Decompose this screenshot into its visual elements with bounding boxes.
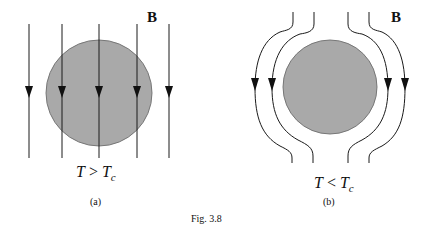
condition-label-a: T>Tc	[76, 164, 116, 180]
condition-operator: >	[89, 163, 98, 180]
figure-caption: Fig. 3.8	[191, 214, 222, 224]
condition-rhs: T	[340, 174, 349, 191]
field-label-b: B	[391, 10, 401, 25]
down-arrow-icon	[268, 78, 276, 91]
sample-circle-b	[283, 40, 377, 134]
condition-lhs: T	[76, 163, 85, 180]
down-arrow-icon	[384, 78, 392, 91]
condition-lhs: T	[314, 174, 323, 191]
field-label-a: B	[147, 10, 157, 25]
figure: B T>Tc (a) B T<Tc (b) Fig. 3.8	[0, 0, 426, 230]
panel-a-drawing	[25, 24, 173, 158]
diagram-canvas	[0, 0, 426, 230]
condition-rhs-subscript: c	[111, 171, 116, 183]
condition-label-b: T<Tc	[314, 175, 354, 191]
panel-tag-a: (a)	[90, 197, 101, 207]
panel-tag-b: (b)	[323, 197, 335, 207]
panel-b-drawing	[251, 12, 409, 163]
down-arrow-icon	[25, 86, 33, 98]
down-arrow-icon	[401, 78, 409, 91]
down-arrow-icon	[251, 78, 259, 91]
condition-rhs-subscript: c	[349, 182, 354, 194]
condition-operator: <	[327, 174, 336, 191]
down-arrow-icon	[165, 86, 173, 98]
condition-rhs: T	[102, 163, 111, 180]
